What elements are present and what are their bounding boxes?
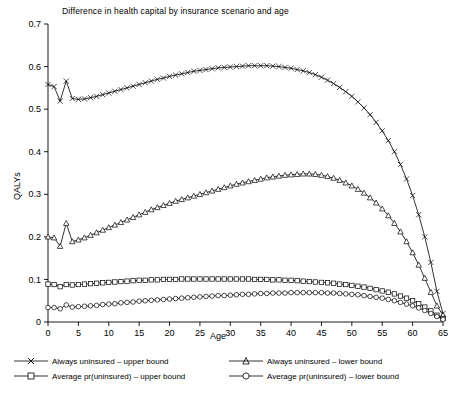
- svg-text:0.4: 0.4: [28, 147, 41, 157]
- svg-text:0: 0: [36, 317, 41, 327]
- svg-text:0.2: 0.2: [28, 232, 41, 242]
- svg-text:0.6: 0.6: [28, 62, 41, 72]
- legend-item: Average pr(uninsured) – lower bound: [229, 371, 444, 381]
- svg-text:15: 15: [134, 328, 144, 338]
- svg-text:0.7: 0.7: [28, 19, 41, 29]
- svg-text:30: 30: [225, 328, 235, 338]
- circle-marker-icon: [229, 371, 263, 381]
- svg-text:40: 40: [286, 328, 296, 338]
- plot-area: 00.10.20.30.40.50.60.7051015202530354045…: [0, 0, 457, 405]
- x-marker-icon: [14, 356, 48, 366]
- svg-text:55: 55: [377, 328, 387, 338]
- chart-container: Difference in health capital by insuranc…: [0, 0, 457, 405]
- svg-text:0: 0: [45, 328, 50, 338]
- legend-label: Average pr(uninsured) – upper bound: [52, 372, 185, 381]
- svg-text:5: 5: [76, 328, 81, 338]
- legend-label: Always uninsured – lower bound: [267, 357, 382, 366]
- legend-row: Always uninsured – upper bound Always un…: [14, 356, 444, 366]
- svg-text:0.1: 0.1: [28, 275, 41, 285]
- svg-text:45: 45: [316, 328, 326, 338]
- svg-text:10: 10: [104, 328, 114, 338]
- legend-item: Always uninsured – upper bound: [14, 356, 229, 366]
- svg-text:50: 50: [347, 328, 357, 338]
- legend-label: Always uninsured – upper bound: [52, 357, 169, 366]
- legend-item: Always uninsured – lower bound: [229, 356, 444, 366]
- square-marker-icon: [14, 371, 48, 381]
- svg-text:35: 35: [256, 328, 266, 338]
- legend-item: Average pr(uninsured) – upper bound: [14, 371, 229, 381]
- svg-text:60: 60: [408, 328, 418, 338]
- svg-text:0.3: 0.3: [28, 189, 41, 199]
- svg-text:25: 25: [195, 328, 205, 338]
- svg-text:20: 20: [165, 328, 175, 338]
- svg-text:65: 65: [438, 328, 448, 338]
- legend-label: Average pr(uninsured) – lower bound: [267, 372, 399, 381]
- svg-text:0.5: 0.5: [28, 104, 41, 114]
- legend-row: Average pr(uninsured) – upper bound Aver…: [14, 371, 444, 381]
- chart-legend: Always uninsured – upper bound Always un…: [14, 356, 444, 386]
- triangle-marker-icon: [229, 356, 263, 366]
